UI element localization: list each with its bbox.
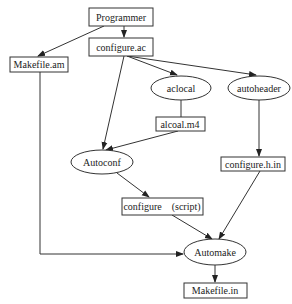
edge-autoconf-configure-script <box>117 173 149 197</box>
node-label: Makefile.am <box>14 59 65 70</box>
node-label: alcoal.m4 <box>160 119 199 130</box>
node-label: Programmer <box>96 12 147 23</box>
node-alcoal-m4: alcoal.m4 <box>156 117 205 131</box>
node-label: aclocal <box>167 83 196 94</box>
node-autoheader: autoheader <box>228 76 290 100</box>
edge-configure-ac-autoheader <box>127 56 256 75</box>
node-label: configure.ac <box>96 42 146 53</box>
node-configure-script: configure (script) <box>122 198 203 215</box>
edge-configure-ac-aclocal <box>127 56 177 75</box>
node-label: Autoconf <box>83 157 121 168</box>
node-label: configure.h.in <box>225 159 281 170</box>
node-label: Makefile.in <box>192 285 238 296</box>
node-autoconf: Autoconf <box>71 150 133 174</box>
node-makefile-in: Makefile.in <box>184 283 247 298</box>
node-configure-ac: configure.ac <box>89 38 153 56</box>
node-programmer: Programmer <box>89 8 153 26</box>
node-makefile-am: Makefile.am <box>10 57 68 72</box>
edge-configure-script-automake <box>172 215 212 239</box>
node-automake: Automake <box>184 239 246 265</box>
node-aclocal: aclocal <box>151 76 211 100</box>
node-label: configure (script) <box>123 201 200 213</box>
autotools-diagram: Programmer configure.ac Makefile.am aclo… <box>0 0 292 304</box>
edge-configure-h-in-automake <box>219 171 260 239</box>
edge-alcoal-m4-autoconf <box>106 131 178 150</box>
edge-configure-ac-autoconf <box>103 56 124 149</box>
node-label: Automake <box>194 247 236 258</box>
node-label: autoheader <box>237 83 282 94</box>
node-configure-h-in: configure.h.in <box>221 157 285 171</box>
